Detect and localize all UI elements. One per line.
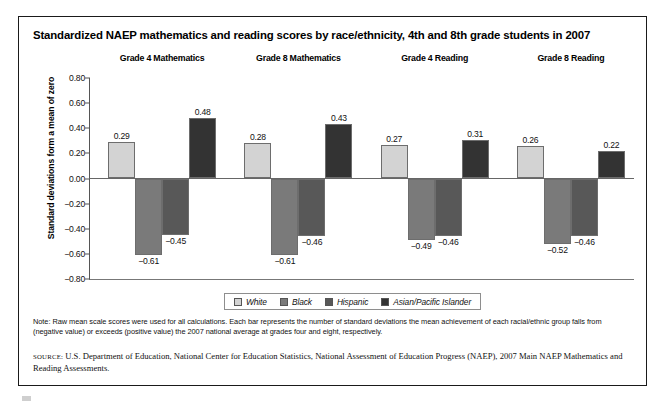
chart-legend: WhiteBlackHispanicAsian/Pacific Islander <box>224 293 481 310</box>
bar <box>381 145 408 179</box>
y-tick-label: −0.20 <box>43 199 85 209</box>
bar-value-label: −0.61 <box>128 256 169 266</box>
bar <box>598 151 625 179</box>
bar <box>108 142 135 178</box>
y-tick-label: 0.80 <box>43 73 85 83</box>
legend-label: White <box>246 297 267 307</box>
bar-value-label: 0.31 <box>455 129 496 139</box>
y-tick-label: 0.20 <box>43 148 85 158</box>
bar <box>571 179 598 237</box>
bar-group-bars: 0.26−0.52−0.460.22 <box>517 78 625 279</box>
bar-value-label: 0.27 <box>374 134 415 144</box>
bar <box>462 140 489 179</box>
y-tick-label: 0.60 <box>43 98 85 108</box>
legend-item: Black <box>280 297 312 307</box>
bar-group-bars: 0.27−0.49−0.460.31 <box>381 78 489 279</box>
legend-swatch-icon <box>325 298 333 306</box>
legend-label: Asian/Pacific Islander <box>393 297 471 307</box>
y-axis-ticks: 0.800.600.400.200.00−0.20−0.40−0.60−0.80 <box>37 57 85 305</box>
bar-group: Grade 4 Mathematics0.29−0.61−0.450.48 <box>108 57 216 287</box>
bar-group: Grade 8 Mathematics0.28−0.61−0.460.43 <box>244 57 352 287</box>
bar <box>244 143 271 178</box>
bar-group-label: Grade 4 Mathematics <box>108 53 216 63</box>
bar-value-label: 0.22 <box>591 140 632 150</box>
plot-area: Standard deviations form a mean of zero … <box>19 57 648 305</box>
bar-group-bars: 0.29−0.61−0.450.48 <box>108 78 216 279</box>
y-tick-mark <box>85 78 90 79</box>
bar-value-label: −0.61 <box>264 256 305 266</box>
legend-label: Hispanic <box>337 297 368 307</box>
bar-group: Grade 4 Reading0.27−0.49−0.460.31 <box>381 57 489 287</box>
legend-swatch-icon <box>280 298 288 306</box>
bar-value-label: 0.26 <box>510 135 551 145</box>
legend-swatch-icon <box>234 298 242 306</box>
figure-source: SOURCE: U.S. Department of Education, Na… <box>33 351 632 374</box>
bar <box>162 179 189 236</box>
bar-group-label: Grade 8 Mathematics <box>244 53 352 63</box>
figure-note: Note: Raw mean scale scores were used fo… <box>33 317 632 337</box>
bar-value-label: −0.46 <box>291 237 332 247</box>
legend-item: Asian/Pacific Islander <box>381 297 471 307</box>
bar <box>435 179 462 237</box>
bar-group-label: Grade 4 Reading <box>381 53 489 63</box>
y-tick-mark <box>85 228 90 229</box>
bar <box>408 179 435 241</box>
bar-group-label: Grade 8 Reading <box>517 53 625 63</box>
y-tick-label: 0.00 <box>43 174 85 184</box>
y-tick-mark <box>85 253 90 254</box>
bar-value-label: 0.29 <box>101 131 142 141</box>
figure-container: Standardized NAEP mathematics and readin… <box>18 16 647 386</box>
bar <box>298 179 325 237</box>
bar <box>544 179 571 244</box>
bar-value-label: 0.43 <box>318 113 359 123</box>
bar <box>517 146 544 179</box>
y-tick-label: −0.80 <box>43 274 85 284</box>
y-tick-mark <box>85 203 90 204</box>
bar <box>189 118 216 178</box>
y-tick-mark <box>85 153 90 154</box>
page-artifact <box>22 396 31 401</box>
y-tick-label: 0.40 <box>43 123 85 133</box>
legend-item: Hispanic <box>325 297 368 307</box>
bar-value-label: −0.46 <box>428 237 469 247</box>
source-kicker: SOURCE: <box>33 353 63 360</box>
bar-group: Grade 8 Reading0.26−0.52−0.460.22 <box>517 57 625 287</box>
bar-group-bars: 0.28−0.61−0.460.43 <box>244 78 352 279</box>
bar-value-label: 0.28 <box>237 132 278 142</box>
source-text: U.S. Department of Education, National C… <box>33 351 622 373</box>
bar-value-label: −0.45 <box>155 236 196 246</box>
y-tick-mark <box>85 103 90 104</box>
y-tick-label: −0.60 <box>43 249 85 259</box>
legend-item: White <box>234 297 267 307</box>
y-tick-label: −0.40 <box>43 224 85 234</box>
page-title: Standardized NAEP mathematics and readin… <box>33 29 634 42</box>
y-tick-mark <box>85 279 90 280</box>
legend-swatch-icon <box>381 298 389 306</box>
bar-value-label: 0.48 <box>182 107 223 117</box>
bar-groups: Grade 4 Mathematics0.29−0.61−0.450.48Gra… <box>90 57 635 287</box>
legend-label: Black <box>292 297 312 307</box>
bar <box>325 124 352 178</box>
bar-value-label: −0.46 <box>564 237 605 247</box>
y-tick-mark <box>85 178 90 179</box>
y-tick-mark <box>85 128 90 129</box>
